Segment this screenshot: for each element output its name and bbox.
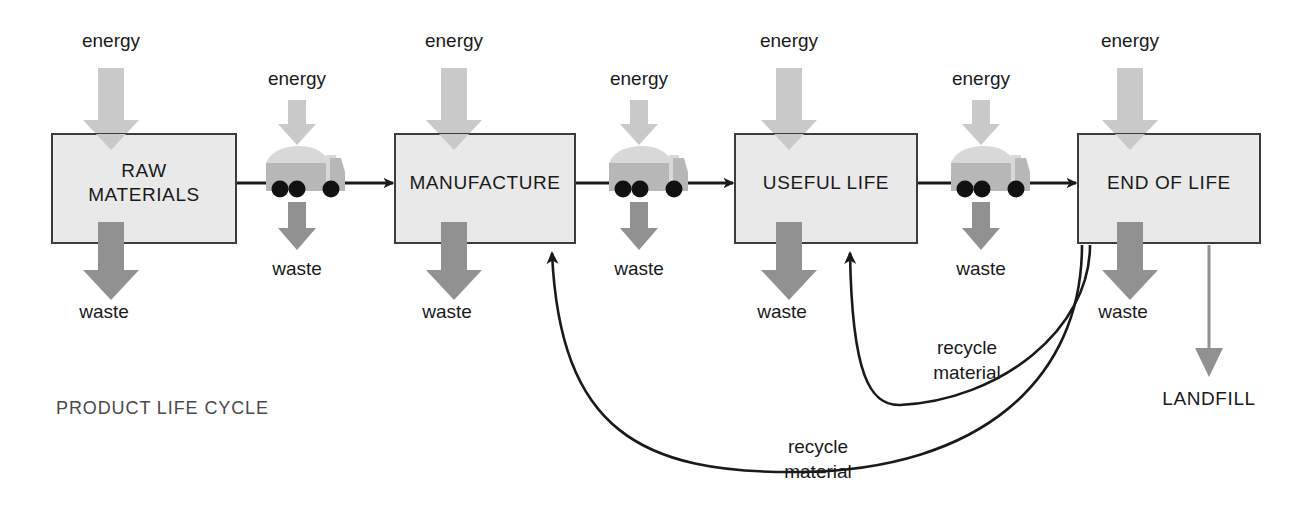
energy-label-raw-materials: energy <box>82 30 141 51</box>
energy-label-end-of-life: energy <box>1101 30 1160 51</box>
waste-label-end-of-life: waste <box>1097 301 1148 322</box>
stage-label-raw-materials-line2: MATERIALS <box>88 184 200 205</box>
recycle-labels: recycle material recycle material <box>784 337 1001 482</box>
diagram-canvas: RAW MATERIALS MANUFACTURE USEFUL LIFE EN… <box>0 0 1308 511</box>
diagram-caption: PRODUCT LIFE CYCLE <box>56 398 269 418</box>
truck-wheel-1a <box>272 181 289 198</box>
waste-arrow-transport-1 <box>278 202 316 250</box>
landfill-flow <box>1195 245 1223 377</box>
waste-labels: waste waste waste waste waste waste wast… <box>78 258 1148 322</box>
truck-wheel-3c <box>1008 181 1025 198</box>
recycle-label-manufacture-line1: recycle <box>788 436 848 457</box>
energy-label-transport-3: energy <box>952 68 1011 89</box>
truck-wheel-1b <box>289 181 306 198</box>
waste-stub-useful-life <box>776 222 802 244</box>
stage-label-useful-life: USEFUL LIFE <box>763 172 889 193</box>
transport-truck-1 <box>266 146 345 198</box>
recycle-label-useful-life-line1: recycle <box>937 337 997 358</box>
truck-wheel-2c <box>666 181 683 198</box>
transport-truck-3 <box>951 146 1030 198</box>
waste-stub-end-of-life <box>1117 222 1143 244</box>
waste-label-useful-life: waste <box>756 301 807 322</box>
truck-wheel-3a <box>957 181 974 198</box>
truck-wheel-3b <box>974 181 991 198</box>
product-life-cycle-diagram: RAW MATERIALS MANUFACTURE USEFUL LIFE EN… <box>0 0 1308 511</box>
waste-label-transport-3: waste <box>955 258 1006 279</box>
energy-label-useful-life: energy <box>760 30 819 51</box>
stage-label-manufacture: MANUFACTURE <box>409 172 560 193</box>
energy-arrow-transport-2 <box>620 100 658 145</box>
landfill-label: LANDFILL <box>1162 388 1256 409</box>
waste-arrows-layer <box>83 202 1158 300</box>
transport-truck-2 <box>609 146 688 198</box>
energy-label-transport-2: energy <box>610 68 669 89</box>
truck-wheel-2b <box>632 181 649 198</box>
waste-label-raw-materials: waste <box>78 301 129 322</box>
waste-label-manufacture: waste <box>421 301 472 322</box>
waste-arrow-transport-2 <box>620 202 658 250</box>
energy-arrow-transport-1 <box>278 100 316 145</box>
recycle-label-useful-life-line2: material <box>933 362 1001 383</box>
truck-wheel-2a <box>615 181 632 198</box>
energy-arrow-transport-3 <box>962 100 1000 145</box>
waste-label-transport-2: waste <box>613 258 664 279</box>
landfill-arrowhead <box>1195 348 1223 377</box>
energy-labels: energy energy energy energy energy energ… <box>82 30 1160 89</box>
energy-label-transport-1: energy <box>268 68 327 89</box>
stage-label-end-of-life: END OF LIFE <box>1107 172 1231 193</box>
waste-arrow-transport-3 <box>962 202 1000 250</box>
recycle-label-manufacture-line2: material <box>784 461 852 482</box>
stage-label-raw-materials-line1: RAW <box>121 160 166 181</box>
energy-label-manufacture: energy <box>425 30 484 51</box>
truck-wheel-1c <box>323 181 340 198</box>
waste-stub-raw-materials <box>98 222 124 244</box>
waste-stub-manufacture <box>441 222 467 244</box>
waste-label-transport-1: waste <box>271 258 322 279</box>
